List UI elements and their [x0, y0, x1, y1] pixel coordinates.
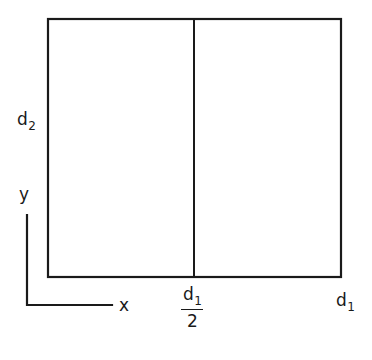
half-width-numerator: d1	[180, 286, 205, 309]
height-dimension-subscript: 2	[28, 119, 36, 133]
height-dimension-symbol: d	[17, 109, 28, 129]
width-dimension-subscript: 1	[347, 300, 355, 314]
half-width-numerator-symbol: d	[183, 284, 194, 304]
y-axis-label: y	[19, 186, 29, 203]
x-axis-label: x	[119, 297, 129, 314]
width-dimension-label: d1	[336, 292, 355, 313]
diagram-canvas: d2 y x d1 2 d1	[0, 0, 372, 360]
width-dimension-symbol: d	[336, 290, 347, 310]
height-dimension-label: d2	[17, 111, 36, 132]
half-width-fraction-label: d1 2	[180, 286, 205, 330]
half-width-numerator-subscript: 1	[194, 294, 202, 308]
coordinate-axis-marker	[27, 215, 112, 305]
half-width-denominator: 2	[180, 310, 205, 330]
